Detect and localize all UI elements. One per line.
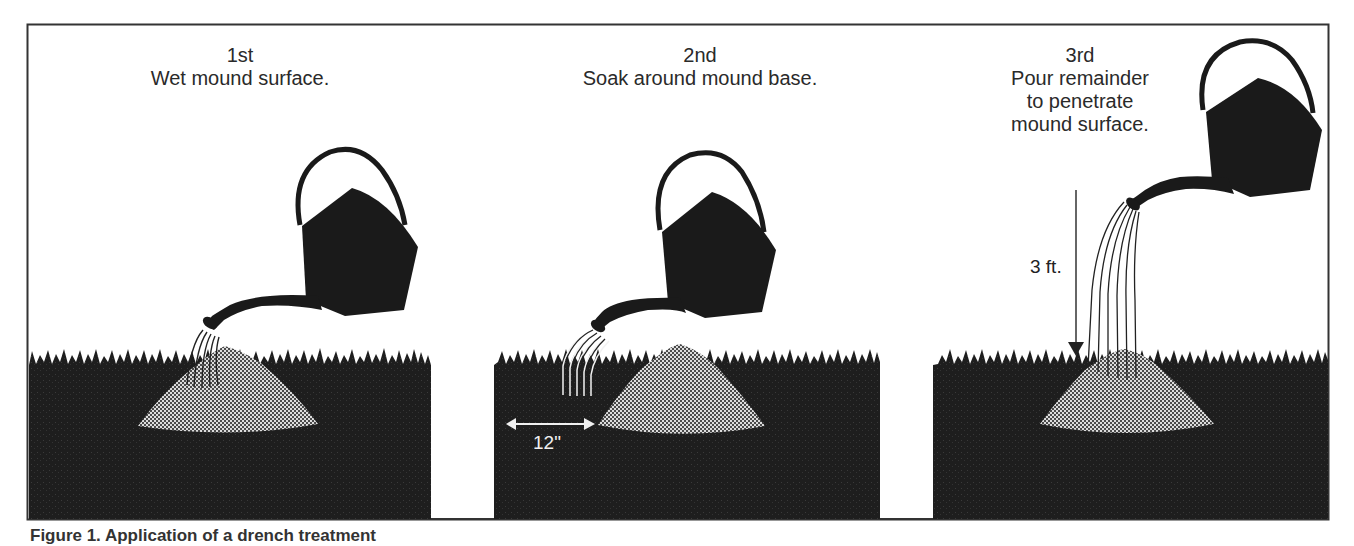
figure-caption: Figure 1. Application of a drench treatm… — [30, 526, 376, 546]
panel-1-step: 1st — [110, 44, 370, 67]
distance-label-12in: 12" — [533, 432, 561, 454]
panel-3-heading: 3rd Pour remainder to penetrate mound su… — [980, 44, 1180, 136]
panel-2-heading: 2nd Soak around mound base. — [560, 44, 840, 90]
panel-3-3ft-arrow — [1068, 190, 1084, 356]
panel-3-step: 3rd — [980, 44, 1180, 67]
panel-1-heading: 1st Wet mound surface. — [110, 44, 370, 90]
panel-2-step: 2nd — [560, 44, 840, 67]
panel-2-instruction: Soak around mound base. — [560, 67, 840, 90]
panel-3-instruction-line-2: to penetrate — [980, 90, 1180, 113]
height-label-3ft: 3 ft. — [1030, 256, 1062, 278]
panel-3-instruction-line-1: Pour remainder — [980, 67, 1180, 90]
panel-1-instruction: Wet mound surface. — [110, 67, 370, 90]
panel-3-instruction-line-3: mound surface. — [980, 113, 1180, 136]
panel-1-watering-can-icon — [201, 149, 418, 331]
panel-2-watering-can-icon — [589, 153, 776, 335]
